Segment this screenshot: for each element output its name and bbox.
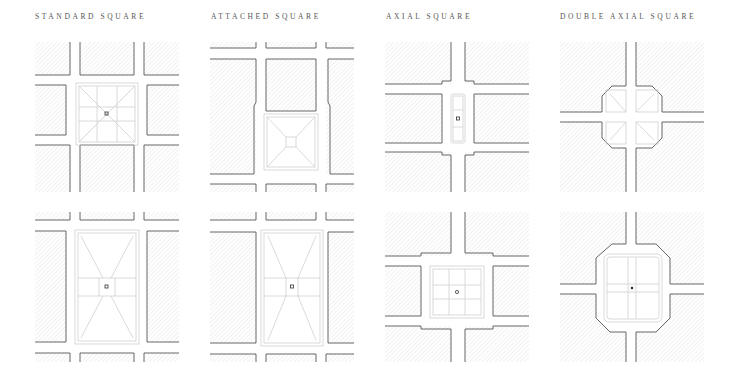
monument-marker [105,285,108,288]
label-axial-square: AXIAL SQUARE [386,12,472,21]
monument-marker [291,285,294,288]
panel-axial-square-bottom [385,212,529,362]
panel-standard-square-top [35,42,179,192]
axial-square-large-plan [385,212,529,362]
panel-axial-square-top [385,42,529,192]
panel-attached-square-top [210,42,354,192]
panel-standard-square-bottom [35,212,179,362]
double-axial-square-large-plan [560,212,704,362]
panel-double-axial-square-top [560,42,704,192]
label-double-axial-square: DOUBLE AXIAL SQUARE [560,12,696,21]
label-standard-square: STANDARD SQUARE [35,12,146,21]
monument-marker [457,117,460,120]
double-axial-square-plan [560,42,704,192]
attached-square-elongated-plan [210,212,354,362]
standard-square-elongated-plan [35,212,179,362]
monument-marker [455,290,458,293]
label-attached-square: ATTACHED SQUARE [211,12,321,21]
panel-double-axial-square-bottom [560,212,704,362]
axial-square-plan [385,42,529,192]
panel-attached-square-bottom [210,212,354,362]
monument-marker [631,287,633,289]
attached-square-plan [210,42,354,192]
standard-square-plan [35,42,179,192]
